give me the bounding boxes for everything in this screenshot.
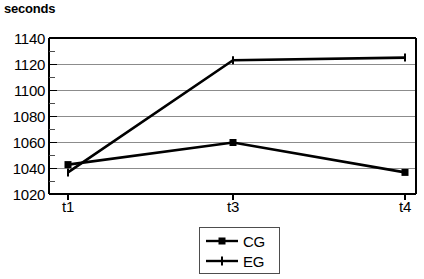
legend-item-cg: CG xyxy=(200,230,279,252)
seconds-line-chart: seconds 1140 1120 1100 1080 1060 1040 10… xyxy=(0,0,424,279)
legend-marker-eg-icon xyxy=(205,254,239,268)
legend-label-eg: EG xyxy=(243,254,264,269)
legend-item-eg: EG xyxy=(200,250,279,272)
legend-marker-cg-icon xyxy=(205,234,239,248)
legend-label-cg: CG xyxy=(243,234,265,249)
x-axis-ticks xyxy=(68,194,405,200)
chart-legend: CG EG xyxy=(199,227,280,274)
